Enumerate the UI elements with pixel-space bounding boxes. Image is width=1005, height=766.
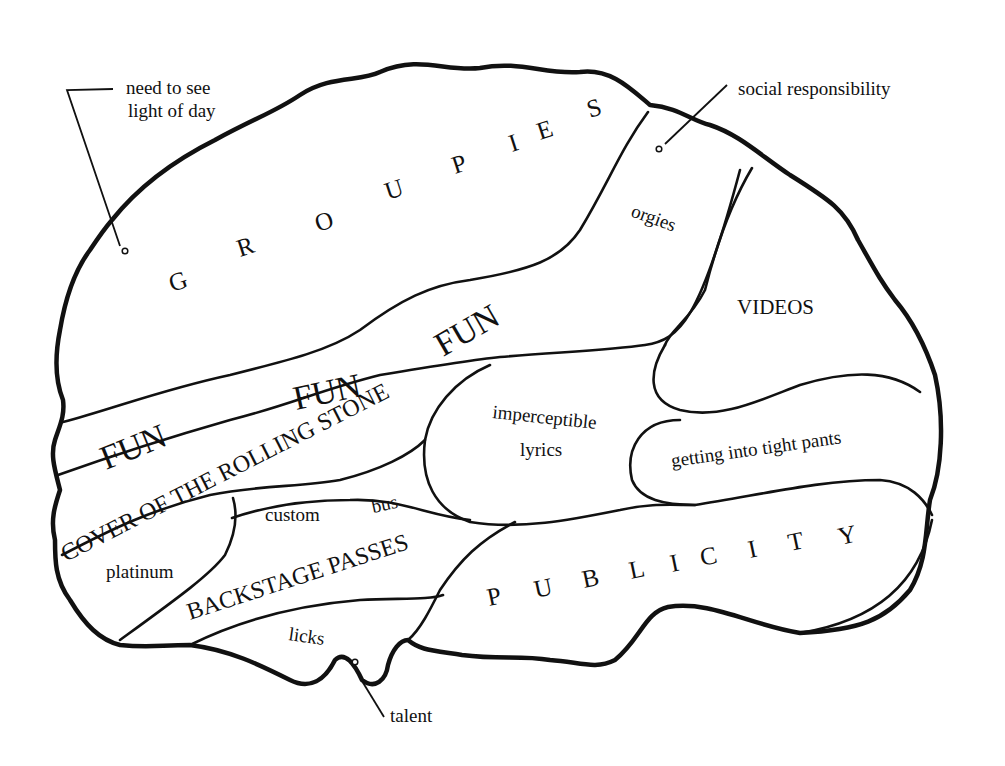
region-publicity-label: P U B L I C I T Y (484, 520, 858, 611)
callout-light-of-day-line2: light of day (128, 100, 216, 121)
publicity-letter: B (579, 563, 601, 593)
region-licks-label: licks (287, 623, 325, 649)
publicity-left-boundary (408, 522, 515, 640)
social-responsibility-leader (665, 85, 727, 144)
groupies-letter: R (233, 231, 258, 262)
region-videos-label: VIDEOS (737, 295, 814, 319)
publicity-letter: U (531, 573, 554, 603)
publicity-letter: Y (835, 520, 858, 550)
publicity-lower-boundary (800, 520, 932, 633)
talent-pin (352, 659, 358, 665)
region-custom-label: custom (265, 504, 320, 525)
publicity-letter: C (697, 541, 719, 571)
callout-talent: talent (390, 705, 433, 726)
social-responsibility-pin (656, 146, 662, 152)
region-tight-pants-label: getting into tight pants (670, 426, 843, 471)
region-imperceptible-label: imperceptible (492, 401, 598, 433)
light-of-day-pin (122, 248, 128, 254)
groupies-letter: I (505, 129, 521, 157)
publicity-letter: T (785, 526, 806, 556)
region-fun-label: FUN (428, 297, 505, 363)
talent-leader (362, 681, 384, 717)
region-fun-label: FUN (95, 417, 172, 477)
publicity-letter: P (484, 582, 503, 611)
videos-lower-boundary (654, 345, 920, 413)
publicity-letter: I (745, 535, 759, 563)
groupies-letter: G (165, 265, 191, 296)
groupies-letter: O (311, 205, 337, 236)
region-bus-label: bus (369, 491, 399, 517)
light-of-day-leader (67, 89, 120, 246)
region-platinum-label: platinum (106, 561, 174, 582)
callout-social-responsibility: social responsibility (738, 78, 891, 99)
groupies-letter: S (583, 93, 605, 123)
callout-light-of-day-line1: need to see (126, 77, 210, 98)
brain-map-diagram: need to see light of day social responsi… (0, 0, 1005, 766)
region-lyrics-label: lyrics (520, 439, 562, 460)
groupies-letter: U (381, 173, 407, 204)
groupies-letter: P (448, 149, 470, 179)
region-orgies-label: orgies (629, 200, 679, 235)
publicity-letter: L (626, 554, 647, 584)
publicity-letter: I (667, 549, 681, 577)
region-backstage-label: BACKSTAGE PASSES (184, 529, 412, 625)
groupies-letter: E (533, 114, 556, 144)
region-groupies-label: G R O U P I E S (165, 93, 605, 297)
